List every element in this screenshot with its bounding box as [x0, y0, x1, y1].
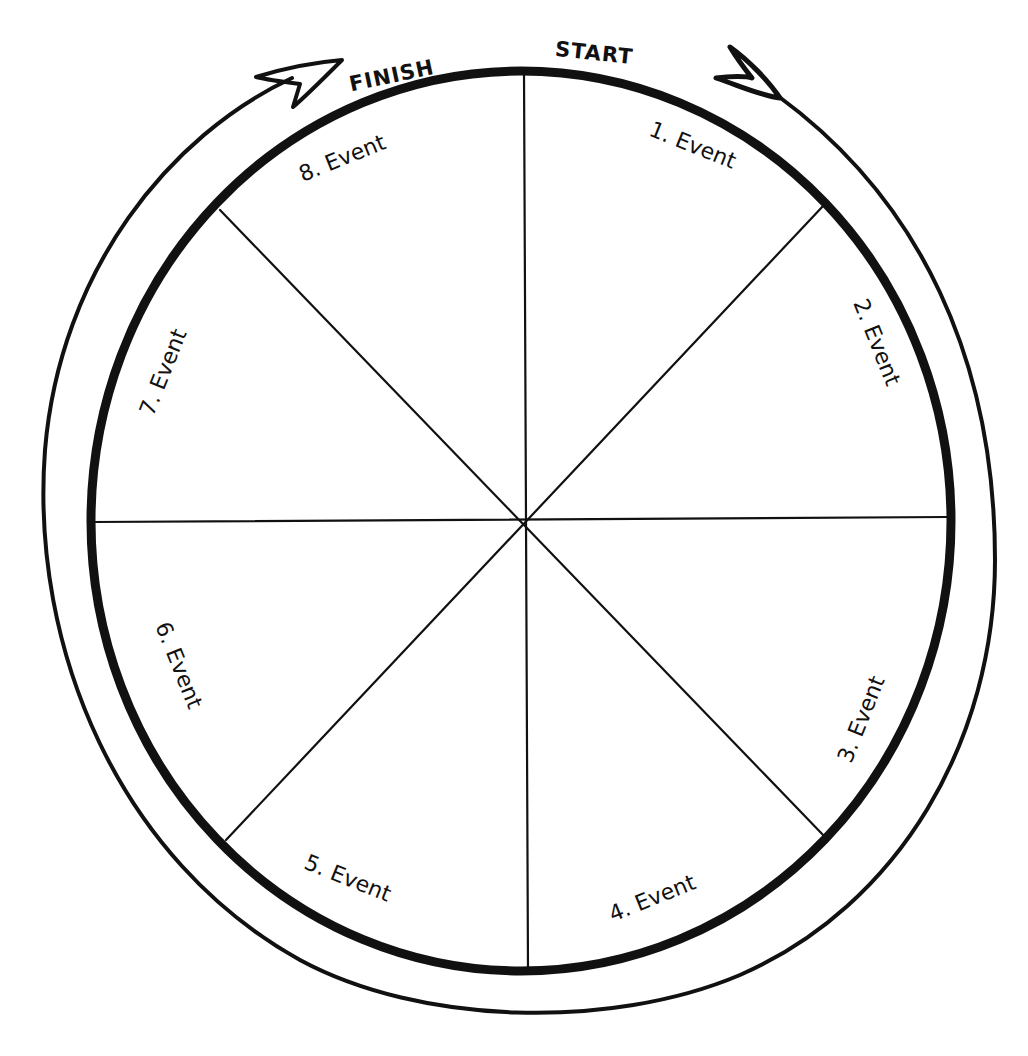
start-label: START [554, 37, 635, 69]
outer-arrow-path [43, 78, 995, 1013]
wheel-spokes [93, 72, 947, 970]
event-label-5: 5. Event [301, 849, 395, 906]
spoke-diagonal-nw-se [220, 210, 826, 838]
event-label-7: 7. Event [134, 325, 191, 419]
finish-arrowhead-icon [256, 60, 342, 107]
event-label-4: 4. Event [605, 869, 699, 926]
event-label-3: 3. Event [832, 672, 889, 766]
event-sequence-wheel: START FINISH 1. Event 2. Event 3. Event … [0, 0, 1028, 1056]
start-arrowhead-icon [716, 47, 780, 98]
event-label-8: 8. Event [295, 129, 389, 186]
event-label-6: 6. Event [150, 618, 207, 712]
